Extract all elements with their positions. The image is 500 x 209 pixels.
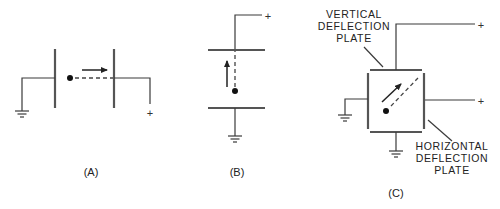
vertical-leader-line bbox=[364, 47, 383, 67]
vertical-label-line2: DEFLECTION bbox=[318, 20, 391, 32]
plus-sign: + bbox=[478, 95, 484, 107]
panel-c: VERTICAL DEFLECTION PLATE + + HORIZONTAL… bbox=[318, 8, 489, 199]
ground-icon bbox=[15, 111, 29, 117]
panel-b: + (B) bbox=[208, 10, 271, 178]
positive-wire bbox=[114, 78, 150, 104]
electron-dot bbox=[67, 75, 73, 81]
caption-c: (C) bbox=[388, 187, 403, 199]
plus-sign: + bbox=[265, 10, 271, 22]
ground-wire bbox=[22, 78, 55, 111]
caption-a: (A) bbox=[84, 166, 99, 178]
left-ground-wire bbox=[345, 99, 368, 115]
horizontal-leader-line bbox=[428, 120, 452, 141]
deflection-plates-diagram: + (A) + (B) VERTICAL DEFLECTION PLATE + bbox=[0, 0, 500, 209]
panel-a: + (A) bbox=[15, 49, 153, 178]
horizontal-label-line1: HORIZONTAL bbox=[416, 140, 489, 152]
beam-path bbox=[391, 78, 418, 106]
caption-b: (B) bbox=[230, 166, 245, 178]
vertical-positive-wire bbox=[396, 24, 475, 70]
plus-sign: + bbox=[147, 107, 153, 119]
positive-wire bbox=[235, 15, 262, 50]
ground-icon bbox=[338, 115, 352, 121]
ground-icon bbox=[389, 151, 403, 157]
ground-icon bbox=[228, 136, 242, 142]
horizontal-label-line3: PLATE bbox=[434, 164, 469, 176]
plus-sign: + bbox=[478, 19, 484, 31]
horizontal-label-line2: DEFLECTION bbox=[416, 152, 489, 164]
vertical-label-line3: PLATE bbox=[336, 32, 371, 44]
vertical-label-line1: VERTICAL bbox=[326, 8, 382, 20]
electron-dot bbox=[383, 108, 389, 114]
electron-dot bbox=[232, 88, 238, 94]
